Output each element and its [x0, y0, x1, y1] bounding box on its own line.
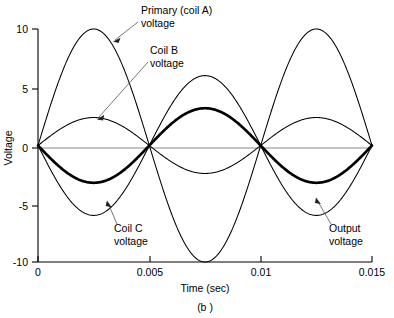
- series-line-output-voltage: [38, 108, 372, 183]
- series-line-primary-coil-a-voltage: [38, 29, 372, 262]
- annotation-coil-c: Coil C voltage: [106, 201, 148, 248]
- x-axis-title: Time (sec): [180, 282, 229, 294]
- annotation-coil-c-label-line2: voltage: [114, 235, 148, 247]
- voltage-waveform-chart: 10 5 0 -5 -10 Voltage 0 0.005 0.01 0.015…: [0, 0, 394, 318]
- annotation-coil-b-label-line2: voltage: [150, 57, 184, 69]
- annotation-output-label-line2: voltage: [329, 235, 363, 247]
- annotation-primary-leader: [115, 22, 138, 40]
- y-tick-label-minus5: -5: [19, 200, 28, 212]
- annotation-coil-c-label-line1: Coil C: [114, 222, 143, 234]
- annotation-coil-c-arrow-icon: [106, 201, 112, 208]
- series-line-coil-c-voltage: [38, 76, 372, 216]
- annotation-output-arrow-icon: [315, 198, 321, 205]
- series-line-coil-b-voltage: [38, 118, 372, 174]
- annotation-output: Output voltage: [315, 198, 363, 248]
- x-tick-label-0: 0: [35, 266, 41, 278]
- y-axis-title: Voltage: [2, 130, 14, 165]
- figure-caption: (b ): [197, 301, 213, 313]
- annotation-coil-b-leader: [99, 62, 148, 117]
- x-tick-label-0015: 0.015: [359, 266, 385, 278]
- annotation-primary-coil-a: Primary (coil A) voltage: [113, 4, 212, 43]
- annotation-coil-b: Coil B voltage: [97, 44, 184, 121]
- y-tick-label-10: 10: [16, 23, 28, 35]
- y-tick-label-minus10: -10: [13, 256, 28, 268]
- figure-panel-b: 10 5 0 -5 -10 Voltage 0 0.005 0.01 0.015…: [0, 0, 394, 318]
- y-tick-label-0: 0: [22, 142, 28, 154]
- annotation-primary-label-line2: voltage: [141, 17, 175, 29]
- x-tick-label-001: 0.01: [251, 266, 272, 278]
- annotation-output-label-line1: Output: [329, 222, 361, 234]
- annotation-primary-label-line1: Primary (coil A): [141, 4, 212, 16]
- x-tick-label-0005: 0.005: [137, 266, 163, 278]
- y-tick-label-5: 5: [22, 83, 28, 95]
- annotation-coil-b-label-line1: Coil B: [150, 44, 178, 56]
